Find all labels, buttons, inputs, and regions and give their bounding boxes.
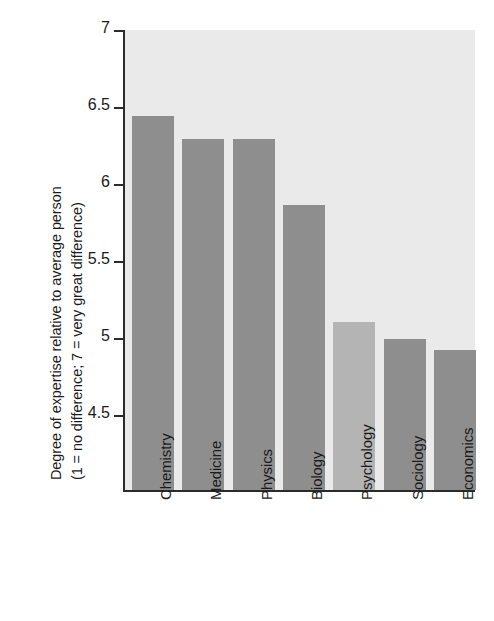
- y-axis-tick: [114, 30, 123, 32]
- y-axis-tick: [114, 107, 123, 109]
- y-axis-tick: [114, 261, 123, 263]
- y-axis-tick-label: 4.5: [14, 404, 110, 422]
- plot-area: [123, 30, 475, 492]
- bar-series: [125, 30, 475, 490]
- y-axis-tick-label: 5.5: [14, 250, 110, 268]
- x-axis-label-sociology: Sociology: [409, 436, 426, 500]
- x-axis-label-economics: Economics: [459, 428, 476, 500]
- x-axis-label-biology: Biology: [308, 452, 325, 501]
- bar-biology: [283, 205, 325, 490]
- x-axis-label-medicine: Medicine: [207, 441, 224, 500]
- bar-medicine: [182, 139, 224, 490]
- y-axis-tick-label: 7: [14, 19, 110, 37]
- x-axis-label-chemistry: Chemistry: [157, 433, 174, 500]
- bar-chart-figure: Degree of expertise relative to average …: [0, 0, 494, 621]
- y-axis-tick: [114, 415, 123, 417]
- y-axis-tick: [114, 184, 123, 186]
- y-axis-tick: [114, 338, 123, 340]
- bar-physics: [233, 139, 275, 490]
- y-axis-tick-label: 6: [14, 173, 110, 191]
- y-axis-tick-label: 6.5: [14, 96, 110, 114]
- y-axis-tick-label: 5: [14, 327, 110, 345]
- x-axis-label-physics: Physics: [258, 449, 275, 500]
- x-axis-label-psychology: Psychology: [358, 424, 375, 500]
